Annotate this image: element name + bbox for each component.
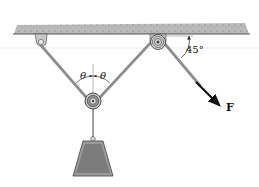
force-label: F — [226, 101, 234, 114]
ceiling — [13, 23, 250, 34]
left-anchor-pulley — [35, 34, 47, 46]
hanging-weight — [73, 137, 113, 176]
theta-label-left: θ — [80, 70, 86, 81]
hanging-pulley — [85, 93, 101, 109]
ropes — [41, 42, 200, 138]
top-pulley — [150, 34, 166, 50]
angle-label-45: 45° — [186, 44, 204, 55]
theta-label-right: θ — [100, 70, 106, 81]
force-arrow — [196, 82, 219, 105]
pulley-diagram: F 45° θ θ — [0, 0, 259, 187]
